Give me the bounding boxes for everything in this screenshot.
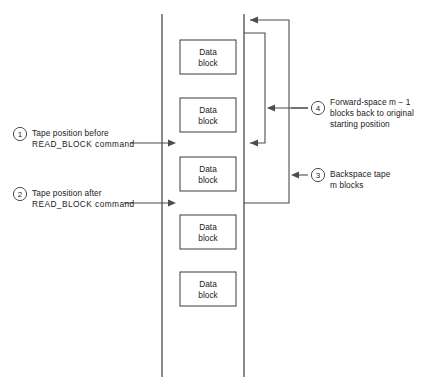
callout-tape-position-after-line-1: Tape position after [32, 188, 102, 198]
callout-tape-position-after-text: Tape position afterREAD_BLOCK command [32, 188, 135, 210]
callout-forward-space-line-1: Forward-space m − 1 [330, 97, 411, 107]
callout-tape-position-after-number: 2 [14, 188, 27, 201]
backspace-path [244, 17, 289, 203]
callout-tape-position-before-line-2: READ_BLOCK command [32, 139, 135, 149]
callout-4-connector [267, 105, 308, 112]
data-block-label: Data block [180, 222, 236, 243]
data-block-label: Data block [180, 105, 236, 126]
forward-space-arrowhead [250, 140, 258, 147]
backspace-arrowhead [250, 17, 258, 24]
callout-tape-position-before-arrowhead [168, 140, 176, 147]
callout-backspace-tape-arrowhead [291, 172, 299, 179]
callout-tape-position-before-number: 1 [14, 128, 27, 141]
callout-backspace-tape-number: 3 [312, 169, 325, 182]
callout-backspace-tape-text: Backspace tapem blocks [330, 169, 390, 191]
data-block-label: Data block [180, 164, 236, 185]
tape-read-block-diagram: Data blockData blockData blockData block… [0, 0, 438, 390]
callout-forward-space-number: 4 [312, 102, 325, 115]
callout-backspace-tape-line-1: Backspace tape [330, 169, 390, 179]
callout-forward-space-line-3: starting position [330, 119, 390, 129]
callout-backspace-tape-line-2: m blocks [330, 180, 364, 190]
data-block-label: Data block [180, 47, 236, 68]
forward-space-path [244, 33, 265, 146]
callout-4-arrowhead [267, 105, 275, 112]
callout-tape-position-before-text: Tape position beforeREAD_BLOCK command [32, 128, 135, 150]
callout-tape-position-after-arrowhead [168, 200, 176, 207]
callout-forward-space-text: Forward-space m − 1blocks back to origin… [330, 97, 414, 131]
callout-forward-space-line-2: blocks back to original [330, 108, 414, 118]
callout-tape-position-before-line-1: Tape position before [32, 128, 109, 138]
data-block-label: Data block [180, 279, 236, 300]
callout-tape-position-after-line-2: READ_BLOCK command [32, 199, 135, 209]
callout-circles-group [13, 101, 324, 200]
